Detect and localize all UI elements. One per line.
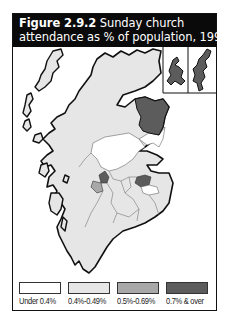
legend-item-0-4-0-49: 0.4%-0.49% (68, 282, 112, 306)
shetland-islands (193, 49, 211, 91)
legend-item-0-5-0-69: 0.5%-0.69% (117, 282, 161, 306)
legend-item-0-7-over: 0.7% & over (166, 282, 210, 306)
title-text-1: Sunday church (100, 16, 184, 30)
orkney-islands (167, 57, 185, 85)
legend-label: 0.4%-0.49% (68, 296, 107, 306)
legend-swatch (19, 282, 61, 294)
title-line-1: Figure 2.9.2 Sunday church (19, 16, 210, 30)
scotland-map (13, 47, 216, 279)
legend-swatch (166, 282, 208, 294)
title-line-2: attendance as % of population, 1994 (19, 30, 210, 44)
legend: Under 0.4% 0.4%-0.49% 0.5%-0.69% 0.7% & … (19, 282, 211, 308)
legend-item-under-0-4: Under 0.4% (19, 282, 63, 306)
legend-swatch (117, 282, 159, 294)
legend-label: 0.7% & over (166, 296, 205, 306)
legend-swatch (68, 282, 110, 294)
legend-label: Under 0.4% (19, 296, 58, 306)
figure-frame: Figure 2.9.2 Sunday church attendance as… (12, 13, 217, 311)
legend-label: 0.5%-0.69% (117, 296, 156, 306)
figure-number: Figure 2.9.2 (19, 16, 96, 30)
figure-header: Figure 2.9.2 Sunday church attendance as… (13, 14, 216, 47)
